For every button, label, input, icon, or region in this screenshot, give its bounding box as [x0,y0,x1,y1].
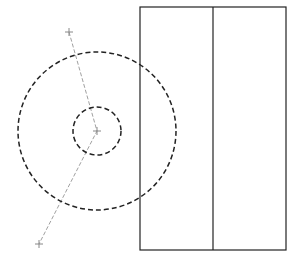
diagram-canvas [0,0,301,264]
background [0,0,301,264]
